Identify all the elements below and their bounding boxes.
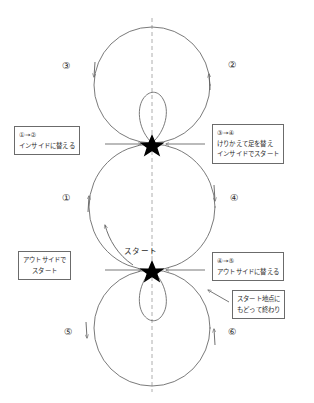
diagram-canvas: ③ ② ① ④ ⑤ ⑥ スタート ①→② インサイドに替える ③→④ けりかえて… [0, 0, 314, 403]
step-label-6: ⑥ [228, 327, 237, 337]
step-label-2: ② [228, 60, 237, 70]
note-3-to-4-line-1: ③→④ [217, 128, 279, 139]
note-4-to-5-line-2: アウトサイドに替える [217, 267, 279, 278]
note-3-to-4-line-3: インサイドでスタート [217, 149, 279, 160]
note-finish: スタート地点に もどって終わり [232, 290, 285, 319]
note-3-to-4: ③→④ けりかえて足を替え インサイドでスタート [212, 124, 284, 164]
top-loop-path [139, 92, 166, 143]
start-label: スタート [124, 245, 158, 256]
note-4-to-5: ④→⑤ アウトサイドに替える [212, 252, 284, 281]
note-1-to-2-line-1: ①→② [19, 130, 75, 141]
note-start-outside-line-2: スタート [23, 266, 66, 277]
step-label-1: ① [62, 193, 71, 203]
step-label-4: ④ [230, 193, 239, 203]
note-finish-line-2: もどって終わり [237, 305, 280, 316]
figure-skating-loop-diagram [0, 0, 314, 403]
note-3-to-4-line-2: けりかえて足を替え [217, 139, 279, 150]
note-start-outside-line-1: アウトサイドで [23, 255, 66, 266]
direction-arrow-step-5 [86, 322, 87, 338]
note-1-to-2-line-2: インサイドに替える [19, 141, 75, 152]
note-start-outside: アウトサイドで スタート [18, 251, 71, 280]
direction-arrow-step-6 [214, 329, 215, 345]
note-1-to-2: ①→② インサイドに替える [14, 126, 80, 155]
leader-line-note-finish [208, 290, 229, 302]
note-finish-line-1: スタート地点に [237, 294, 280, 305]
direction-arrow-step-2 [209, 74, 210, 90]
note-4-to-5-line-1: ④→⑤ [217, 256, 279, 267]
step-label-3: ③ [62, 61, 71, 71]
step-label-5: ⑤ [64, 327, 73, 337]
